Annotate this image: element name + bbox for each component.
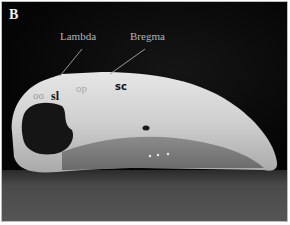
annotation-sc: sc: [115, 81, 127, 92]
bregma-leader: [110, 49, 145, 74]
annotation-oo: oo: [33, 89, 44, 101]
foramen: [143, 126, 150, 131]
annotation-lambda: Lambda: [60, 30, 96, 42]
lambda-leader: [60, 49, 82, 76]
panel-label: B: [9, 7, 18, 23]
annotation-op: op: [76, 82, 87, 94]
annotation-bregma: Bregma: [130, 30, 165, 42]
figure-panel: B Lambda Bregma op sc oo sl: [2, 2, 288, 221]
annotation-sl: sl: [51, 89, 59, 104]
